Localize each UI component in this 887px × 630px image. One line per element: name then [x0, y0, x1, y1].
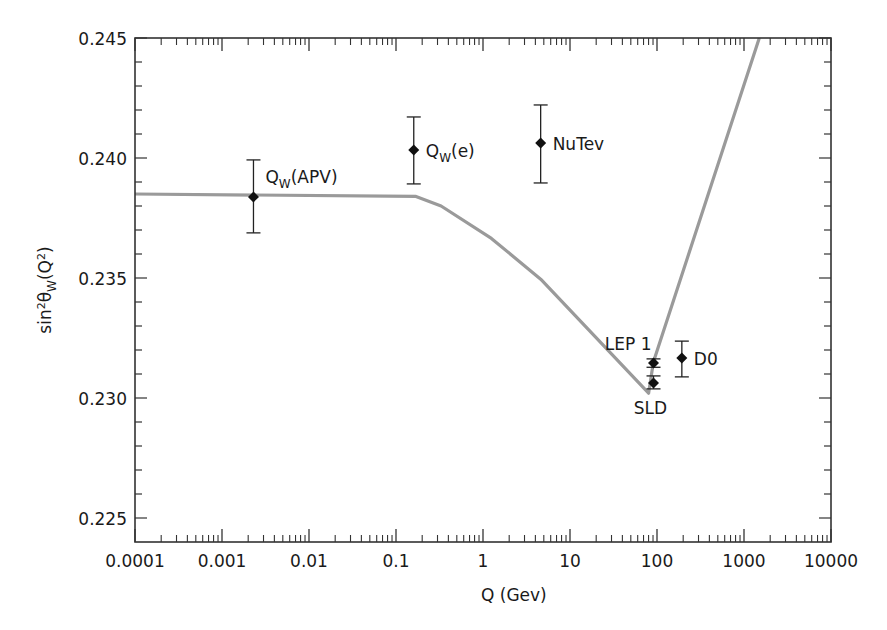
y-tick-label: 0.235 — [78, 269, 127, 289]
point-label: NuTev — [553, 134, 605, 154]
data-point-nutev: NuTev — [534, 105, 605, 183]
diamond-marker — [408, 145, 419, 156]
data-point-d0: D0 — [675, 341, 718, 377]
x-tick-label: 1000 — [722, 551, 765, 571]
point-label: QW(e) — [426, 141, 475, 165]
y-tick-label: 0.230 — [78, 389, 127, 409]
data-point-qw-e-: QW(e) — [407, 117, 475, 184]
x-tick-label: 10000 — [804, 551, 858, 571]
y-axis-ticks: 0.2250.2300.2350.2400.245 — [78, 29, 831, 529]
weak-mixing-angle-chart: 0.00010.0010.010.1110100100010000 0.2250… — [0, 0, 887, 630]
y-axis-title: sin2θW(Q2) — [35, 246, 59, 333]
data-point-lep-1: LEP 1 — [605, 334, 661, 369]
sm-curve-line — [135, 38, 759, 393]
diamond-marker — [676, 352, 687, 363]
x-tick-label: 100 — [641, 551, 673, 571]
x-axis-ticks: 0.00010.0010.010.1110100100010000 — [105, 38, 858, 571]
x-tick-label: 0.01 — [290, 551, 328, 571]
x-tick-label: 10 — [559, 551, 581, 571]
x-tick-label: 0.1 — [382, 551, 409, 571]
x-tick-label: 1 — [478, 551, 489, 571]
plot-frame — [135, 38, 831, 542]
point-label: D0 — [694, 349, 718, 369]
point-label: SLD — [634, 398, 667, 418]
diamond-marker — [535, 137, 546, 148]
x-axis-title: Q (Gev) — [481, 585, 547, 605]
point-label: QW(APV) — [265, 167, 337, 191]
x-tick-label: 0.001 — [198, 551, 247, 571]
data-points: QW(APV)QW(e)NuTevLEP 1SLDD0 — [246, 105, 717, 418]
y-tick-label: 0.240 — [78, 149, 127, 169]
sm-curve — [135, 38, 759, 393]
diamond-marker — [248, 191, 259, 202]
point-label: LEP 1 — [605, 334, 652, 354]
y-tick-label: 0.225 — [78, 509, 127, 529]
x-tick-label: 0.0001 — [105, 551, 164, 571]
y-tick-label: 0.245 — [78, 29, 127, 49]
